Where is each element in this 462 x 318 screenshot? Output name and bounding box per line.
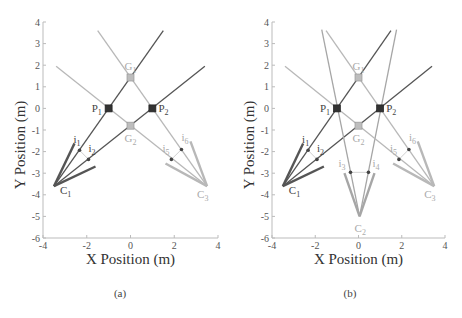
x-tick-label: -2 — [311, 240, 319, 251]
y-tick-label: -2 — [261, 146, 269, 157]
x-tick-label: -2 — [83, 240, 91, 251]
y-tick-label: -2 — [32, 146, 40, 157]
y-tick-label: -5 — [32, 211, 40, 222]
image-point-label: i1 — [74, 133, 81, 148]
image-point-label: i5 — [390, 142, 397, 157]
y-axis-label: Y Position (m) — [241, 101, 258, 190]
y-tick-label: 0 — [35, 103, 40, 114]
true-point-label: P2 — [386, 102, 396, 117]
image-point-marker — [78, 149, 82, 153]
y-tick-label: 2 — [35, 60, 40, 71]
panel-b-chart: 43210-1-2-3-4-5-6-4-2024X Position (m)Y … — [241, 17, 448, 301]
true-point-label: P1 — [92, 102, 102, 117]
y-tick-label: 2 — [264, 60, 269, 71]
y-tick-label: 1 — [35, 81, 40, 92]
image-point-label: i6 — [181, 131, 188, 146]
image-point-label: i4 — [372, 157, 379, 172]
image-point-marker — [306, 149, 310, 153]
x-tick-label: 2 — [399, 240, 404, 251]
ghost-point-marker — [355, 74, 362, 81]
image-plane — [171, 149, 181, 159]
image-point-label: i3 — [338, 157, 345, 172]
image-point-marker — [87, 158, 91, 162]
y-tick-label: -3 — [261, 168, 269, 179]
image-point-marker — [407, 148, 411, 152]
image-point-marker — [349, 171, 353, 175]
x-tick-label: 4 — [216, 240, 221, 251]
x-tick-label: -4 — [268, 240, 276, 251]
image-point-marker — [180, 148, 184, 152]
x-tick-label: 4 — [443, 240, 448, 251]
y-tick-label: 0 — [264, 103, 269, 114]
y-tick-label: 1 — [264, 81, 269, 92]
image-point-marker — [397, 158, 401, 162]
image-plane — [399, 149, 409, 159]
y-axis-label: Y Position (m) — [12, 101, 29, 190]
ghost-point-marker — [127, 122, 134, 129]
y-tick-label: 3 — [264, 38, 269, 49]
true-point-marker — [149, 105, 156, 112]
y-tick-label: -3 — [32, 168, 40, 179]
ghost-point-marker — [127, 74, 134, 81]
camera-label: C2 — [355, 222, 366, 237]
ghost-point-label: G2 — [125, 132, 137, 147]
ghost-point-marker — [355, 122, 362, 129]
image-point-label: i5 — [162, 142, 169, 157]
ghost-point-label: G2 — [353, 132, 365, 147]
true-point-marker — [105, 105, 112, 112]
image-point-label: i2 — [317, 142, 324, 157]
true-point-marker — [333, 105, 340, 112]
image-point-marker — [367, 171, 371, 175]
true-point-marker — [377, 105, 384, 112]
y-tick-label: -4 — [32, 189, 40, 200]
panel-a-chart: 43210-1-2-3-4-5-6-4-2024X Position (m)Y … — [12, 17, 221, 301]
y-tick-label: -1 — [261, 125, 269, 136]
y-tick-label: 4 — [264, 17, 269, 28]
image-plane — [80, 150, 89, 159]
camera-label: C3 — [424, 188, 435, 203]
panel-caption: (a) — [114, 287, 127, 300]
camera-label: C3 — [197, 188, 208, 203]
image-point-label: i2 — [89, 142, 96, 157]
y-tick-label: 4 — [35, 17, 40, 28]
camera-label: C1 — [289, 184, 300, 199]
image-point-marker — [170, 158, 174, 162]
camera-frustum-edge — [54, 143, 75, 186]
true-point-label: P2 — [158, 102, 168, 117]
camera-frustum-edge — [283, 143, 303, 186]
x-axis-label: X Position (m) — [314, 251, 403, 268]
x-tick-label: -4 — [39, 240, 47, 251]
x-tick-label: 0 — [356, 240, 361, 251]
camera-label: C1 — [60, 184, 71, 199]
y-tick-label: -1 — [32, 125, 40, 136]
image-point-marker — [315, 158, 319, 162]
x-axis-label: X Position (m) — [86, 251, 175, 268]
x-tick-label: 2 — [172, 240, 177, 251]
true-point-label: P1 — [320, 102, 330, 117]
image-point-label: i6 — [409, 131, 416, 146]
y-tick-label: -4 — [261, 189, 269, 200]
panel-caption: (b) — [344, 287, 357, 300]
y-tick-label: -5 — [261, 211, 269, 222]
figure: 43210-1-2-3-4-5-6-4-2024X Position (m)Y … — [0, 0, 462, 318]
x-tick-label: 0 — [128, 240, 133, 251]
image-plane — [308, 150, 317, 159]
y-tick-label: 3 — [35, 38, 40, 49]
